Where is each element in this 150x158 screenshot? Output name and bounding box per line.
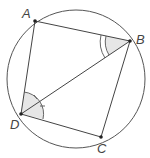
label-d: D: [10, 117, 19, 132]
point-d: [19, 112, 23, 116]
point-b: [128, 39, 132, 43]
label-a: A: [21, 6, 31, 21]
point-a: [33, 19, 37, 23]
label-c: C: [97, 141, 107, 156]
side-bc: [101, 41, 130, 137]
circumcircle: [7, 10, 145, 148]
cyclic-quadrilateral-diagram: A B C D: [0, 0, 150, 158]
side-ab: [35, 21, 130, 41]
label-b: B: [136, 32, 145, 47]
point-c: [99, 135, 103, 139]
angle-arc-b-outer: [100, 35, 105, 58]
diagonal-bd: [21, 41, 130, 114]
